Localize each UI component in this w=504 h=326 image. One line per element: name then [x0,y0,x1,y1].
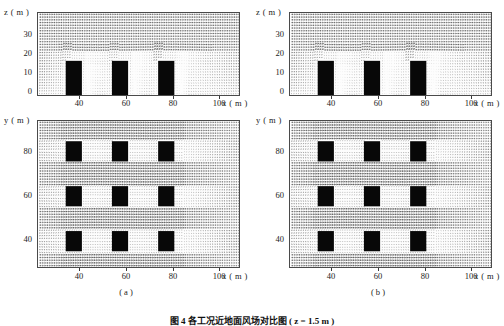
figure-container: z ( m ) 30 20 10 0 40 60 80 100 x ( m ) … [0,0,504,326]
panel-b-bottom-y-axis-title: y ( m ) [256,115,282,125]
panel-a-top-xtick-40: 40 [65,98,93,108]
figure-caption: 图 4 各工况近地面风场对比图 ( z = 1.5 m ) [0,314,504,326]
panel-b-top-ytick-10: 10 [260,67,284,77]
panel-b-top-ytick-20: 20 [260,48,284,58]
panel-b-vertical-section-plot [289,12,492,96]
panel-b-bottom-xtick-80: 80 [411,271,439,281]
panel-b-bottom-ytick-60: 60 [260,190,284,200]
panel-a: z ( m ) 30 20 10 0 40 60 80 100 x ( m ) … [0,0,252,326]
panel-a-top-xtick-80: 80 [159,98,187,108]
panel-a-top-ytick-30: 30 [8,29,32,39]
panel-b-top-ytick-30: 30 [260,29,284,39]
panel-a-vertical-vector-field [38,13,239,95]
panel-b-top-x-axis-title: x ( m ) [474,98,500,108]
panel-a-bottom-xtick-40: 40 [65,271,93,281]
panel-a-bottom-ytick-60: 60 [8,190,32,200]
panel-b-top-y-axis-title: z ( m ) [256,7,281,17]
panel-b-bottom-xtick-60: 60 [364,271,392,281]
panel-a-vertical-section-plot [37,12,240,96]
panel-a-top-ytick-20: 20 [8,48,32,58]
panel-a-top-y-axis-title: z ( m ) [4,7,29,17]
panel-a-bottom-y-axis-title: y ( m ) [4,115,30,125]
panel-a-bottom-xtick-80: 80 [159,271,187,281]
panel-a-top-xtick-60: 60 [112,98,140,108]
panel-b-bottom-xtick-40: 40 [317,271,345,281]
panel-b: z ( m ) 30 20 10 0 40 60 80 100 x ( m ) … [252,0,504,326]
panel-b-top-xtick-60: 60 [364,98,392,108]
panel-a-bottom-ytick-80: 80 [8,146,32,156]
panel-b-top-xtick-40: 40 [317,98,345,108]
panel-b-plan-vector-field [290,121,491,267]
panel-b-vertical-vector-field [290,13,491,95]
panel-b-top-xtick-80: 80 [411,98,439,108]
panel-b-bottom-ytick-80: 80 [260,146,284,156]
panel-a-sub-label: ( a ) [0,287,252,297]
panel-b-sub-label: ( b ) [252,287,504,297]
panel-a-bottom-xtick-60: 60 [112,271,140,281]
panel-a-bottom-ytick-40: 40 [8,234,32,244]
panel-a-plan-vector-field [38,121,239,267]
panel-a-plan-view-plot [37,120,240,268]
panel-a-top-ytick-0: 0 [8,86,32,96]
panel-b-bottom-ytick-40: 40 [260,234,284,244]
panel-a-top-ytick-10: 10 [8,67,32,77]
panel-b-bottom-x-axis-title: x ( m ) [474,271,500,281]
panel-a-top-x-axis-title: x ( m ) [222,98,248,108]
panel-a-bottom-x-axis-title: x ( m ) [222,271,248,281]
panel-b-plan-view-plot [289,120,492,268]
panel-b-top-ytick-0: 0 [260,86,284,96]
